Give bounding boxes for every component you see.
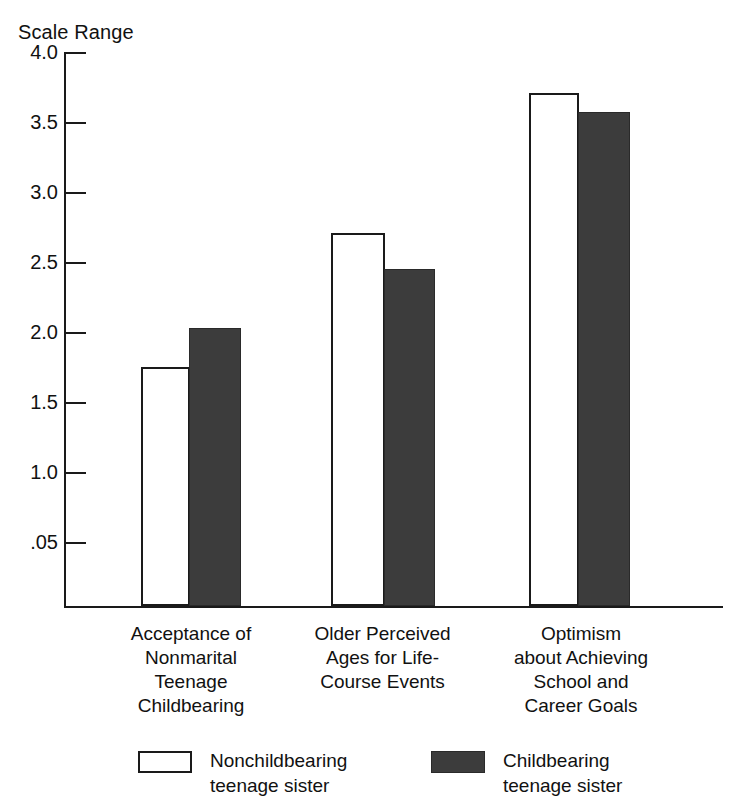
y-tick-2-0 xyxy=(66,332,86,334)
legend-item-nonchildbearing: Nonchildbearing teenage sister xyxy=(138,748,347,798)
y-tick-label-3-5: 3.5 xyxy=(2,112,58,132)
y-axis-title: Scale Range xyxy=(18,21,134,43)
legend-label-nonchildbearing: Nonchildbearing teenage sister xyxy=(210,748,347,798)
legend-label-line: teenage sister xyxy=(503,773,622,798)
plot-area xyxy=(64,52,723,608)
bar-childbearing-older-ages xyxy=(384,269,435,606)
bar-childbearing-acceptance xyxy=(189,328,241,606)
y-tick-2-5 xyxy=(66,262,86,264)
category-label-older-ages: Older Perceived Ages for Life- Course Ev… xyxy=(290,622,475,694)
category-label-line: Career Goals xyxy=(483,694,679,718)
category-label-line: Course Events xyxy=(290,670,475,694)
legend-swatch-light-icon xyxy=(138,751,192,773)
legend-item-childbearing: Childbearing teenage sister xyxy=(431,748,622,798)
category-label-line: Childbearing xyxy=(100,694,282,718)
chart-page: Scale Range 4.0 3.5 3.0 2.5 2.0 1.5 1.0 … xyxy=(0,0,743,804)
category-label-line: Nonmarital xyxy=(100,646,282,670)
category-label-line: School and xyxy=(483,670,679,694)
y-axis-line xyxy=(64,52,66,608)
y-tick-label-4-0: 4.0 xyxy=(2,42,58,62)
category-label-line: about Achieving xyxy=(483,646,679,670)
category-label-line: Teenage xyxy=(100,670,282,694)
category-label-optimism: Optimism about Achieving School and Care… xyxy=(483,622,679,718)
chart-legend: Nonchildbearing teenage sister Childbear… xyxy=(0,744,743,804)
legend-label-line: Nonchildbearing xyxy=(210,748,347,773)
legend-swatch-dark-icon xyxy=(431,751,485,773)
y-tick-3-0 xyxy=(66,192,86,194)
legend-label-line: teenage sister xyxy=(210,773,347,798)
y-tick-label-3-0: 3.0 xyxy=(2,182,58,202)
y-tick-label-1-0: 1.0 xyxy=(2,462,58,482)
category-label-line: Optimism xyxy=(483,622,679,646)
bar-childbearing-optimism xyxy=(578,112,630,606)
y-tick-0-05 xyxy=(66,542,86,544)
y-tick-3-5 xyxy=(66,122,86,124)
category-label-acceptance: Acceptance of Nonmarital Teenage Childbe… xyxy=(100,622,282,718)
bar-nonchildbearing-acceptance xyxy=(141,367,190,606)
y-tick-label-1-5: 1.5 xyxy=(2,392,58,412)
y-tick-label-0-05: .05 xyxy=(2,532,58,552)
y-tick-label-2-0: 2.0 xyxy=(2,322,58,342)
legend-label-childbearing: Childbearing teenage sister xyxy=(503,748,622,798)
bar-nonchildbearing-optimism xyxy=(529,93,579,606)
bar-nonchildbearing-older-ages xyxy=(331,233,385,606)
legend-label-line: Childbearing xyxy=(503,748,622,773)
category-label-line: Ages for Life- xyxy=(290,646,475,670)
y-tick-label-2-5: 2.5 xyxy=(2,252,58,272)
x-axis-line xyxy=(64,606,723,608)
y-tick-4-0 xyxy=(66,52,86,54)
y-tick-1-5 xyxy=(66,402,86,404)
y-tick-1-0 xyxy=(66,472,86,474)
category-label-line: Older Perceived xyxy=(290,622,475,646)
category-label-line: Acceptance of xyxy=(100,622,282,646)
